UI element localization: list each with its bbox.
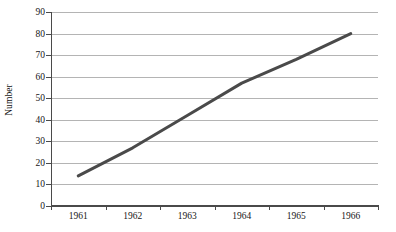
y-axis-tick-mark — [46, 34, 51, 35]
x-axis-tick-label: 1961 — [69, 211, 88, 221]
x-axis-tick-mark — [215, 205, 216, 210]
y-axis-tick-label: 60 — [36, 72, 46, 82]
y-axis-tick-label: 30 — [36, 136, 46, 146]
y-axis-tick-mark — [46, 12, 51, 13]
y-axis-tick-mark — [46, 55, 51, 56]
x-axis-tick-label: 1966 — [341, 211, 360, 221]
y-axis-tick-label: 90 — [36, 7, 46, 17]
x-axis-tick-mark — [106, 205, 107, 210]
y-axis-tick-mark — [46, 98, 51, 99]
y-axis-tick-label: 40 — [36, 115, 46, 125]
y-axis-tick-mark — [46, 141, 51, 142]
line-chart: Number 0102030405060708090 1961196219631… — [0, 0, 396, 232]
y-axis-tick-mark — [46, 163, 51, 164]
y-axis-tick-labels: 0102030405060708090 — [18, 12, 48, 206]
y-axis-title: Number — [0, 0, 18, 200]
y-axis-tick-label: 10 — [36, 179, 46, 189]
y-axis-tick-label: 0 — [40, 201, 45, 211]
x-axis-tick-label: 1963 — [178, 211, 197, 221]
series-polyline — [78, 34, 351, 176]
x-axis-tick-mark — [51, 205, 52, 210]
series-line-number — [51, 12, 378, 206]
y-axis-tick-label: 50 — [36, 93, 46, 103]
y-axis-tick-label: 80 — [36, 29, 46, 39]
x-axis-tick-mark — [378, 205, 379, 210]
x-axis-tick-label: 1962 — [123, 211, 142, 221]
y-axis-title-label: Number — [4, 84, 14, 116]
y-axis-tick-mark — [46, 77, 51, 78]
y-axis-tick-mark — [46, 184, 51, 185]
x-axis-tick-mark — [160, 205, 161, 210]
y-axis-tick-mark — [46, 120, 51, 121]
y-axis-tick-label: 20 — [36, 158, 46, 168]
x-axis-tick-label: 1965 — [287, 211, 306, 221]
x-axis-tick-label: 1964 — [232, 211, 251, 221]
x-axis-tick-mark — [269, 205, 270, 210]
y-axis-tick-label: 70 — [36, 50, 46, 60]
x-axis-tick-mark — [324, 205, 325, 210]
